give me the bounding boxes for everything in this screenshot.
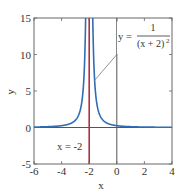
equation-exponent: 2	[166, 37, 170, 45]
y-tick-label: 0	[26, 122, 32, 134]
asymptote-label: x = -2	[57, 141, 82, 152]
y-axis-label: y	[4, 89, 16, 95]
x-tick-label: -4	[57, 165, 67, 177]
equation-lhs: y =	[118, 31, 132, 42]
equation-annotation: y = 1 (x + 2) 2	[117, 22, 171, 54]
x-axis-label: x	[98, 179, 104, 191]
x-tick-label: 0	[114, 165, 120, 177]
x-tick-label: 2	[142, 165, 148, 177]
y-tick-label: 10	[20, 49, 32, 61]
x-tick-label: 4	[169, 165, 175, 177]
equation-denominator: (x + 2)	[137, 38, 164, 50]
y-tick-labels: -5051015	[20, 12, 32, 170]
x-tick-label: -2	[85, 165, 94, 177]
y-tick-label: 15	[20, 12, 32, 24]
equation-numerator: 1	[151, 22, 156, 33]
y-tick-label: -5	[22, 158, 32, 170]
y-tick-label: 5	[26, 85, 32, 97]
x-tick-labels: -6-4-2024	[29, 165, 175, 177]
chart: y = 1 (x + 2) 2 x = -2 -6-4-2024 -505101…	[0, 0, 182, 193]
